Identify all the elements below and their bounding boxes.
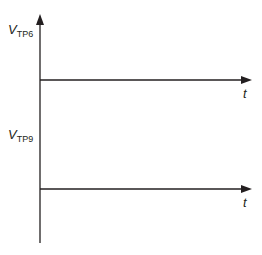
signal-label-main: V <box>8 127 17 142</box>
vertical-axis <box>36 14 44 243</box>
time-axis-tp9 <box>40 185 252 193</box>
signal-label-main: V <box>8 22 17 37</box>
signal-label-subscript: TP9 <box>17 134 34 144</box>
signal-label-vtp9: VTP9 <box>8 128 33 144</box>
signal-label-vtp6: VTP6 <box>8 23 33 39</box>
time-axis-tp6 <box>40 76 252 84</box>
signal-label-subscript: TP6 <box>17 29 34 39</box>
time-label-tp6: t <box>243 87 247 100</box>
time-label-tp9: t <box>243 196 247 209</box>
arrow-up-icon <box>36 14 44 25</box>
arrow-right-icon <box>241 76 252 84</box>
arrow-right-icon <box>241 185 252 193</box>
timing-diagram <box>0 0 262 255</box>
